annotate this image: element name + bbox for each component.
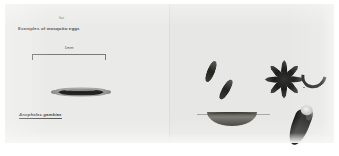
anopheles-egg-specimen: [51, 82, 111, 102]
egg-rosette: [261, 56, 307, 102]
species-caption: Anopheles gambiae: [19, 112, 62, 119]
scanned-sheet: Examples of mosquito eggs 1mm float Anop…: [5, 4, 334, 143]
mosquito-egg-plate: Examples of mosquito eggs 1mm float Anop…: [0, 0, 339, 156]
egg-raft: [207, 112, 257, 126]
left-photo-panel: Examples of mosquito eggs 1mm float Anop…: [5, 4, 169, 143]
egg-highlight: [65, 89, 95, 91]
scale-bar: [32, 54, 106, 55]
page-title: Examples of mosquito eggs: [18, 26, 80, 31]
panel-seam: [169, 4, 170, 143]
raft-rim: [207, 112, 257, 115]
egg-float-marker: float: [59, 17, 64, 20]
scalebar-label: 1mm: [32, 45, 106, 50]
